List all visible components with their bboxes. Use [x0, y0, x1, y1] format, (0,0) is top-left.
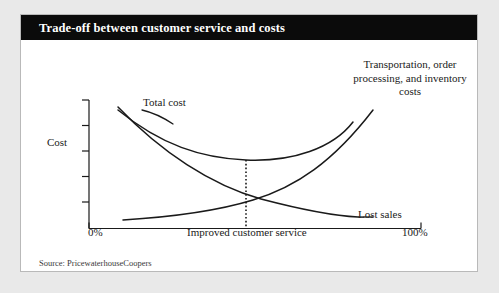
x-axis-max-label: 100%	[402, 226, 428, 238]
page-title: Trade-off between customer service and c…	[39, 20, 285, 35]
figure-title-bar: Trade-off between customer service and c…	[21, 15, 477, 40]
y-axis-title: Cost	[47, 136, 67, 148]
source-note: Source: PricewaterhouseCoopers	[39, 258, 152, 268]
x-axis-title: Improved customer service	[187, 226, 307, 238]
transportation-curve	[123, 110, 373, 220]
transportation-costs-label: Transportation, order processing, and in…	[351, 58, 469, 99]
total-cost-leader-line	[142, 110, 173, 124]
page-root: Trade-off between customer service and c…	[0, 0, 499, 293]
y-axis-ticks	[82, 100, 89, 202]
total-cost-curve	[118, 110, 353, 160]
total-cost-label: Total cost	[143, 96, 186, 108]
lost-sales-curve	[118, 107, 358, 217]
lost-sales-label: Lost sales	[358, 208, 402, 220]
x-axis-min-label: 0%	[88, 226, 103, 238]
figure-card: Trade-off between customer service and c…	[20, 14, 478, 272]
chart-plot-area: Cost Total cost Lost sales Transportatio…	[21, 40, 477, 271]
